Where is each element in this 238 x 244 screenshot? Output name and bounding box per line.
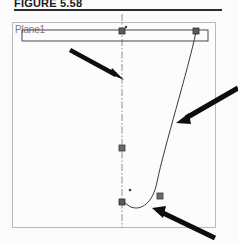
plane-label: Plane1 bbox=[15, 24, 45, 35]
figure-caption: FIGURE 5.58 bbox=[14, 0, 82, 9]
cad-sketch-canvas[interactable] bbox=[12, 22, 216, 228]
caption-divider-rule bbox=[14, 9, 222, 11]
